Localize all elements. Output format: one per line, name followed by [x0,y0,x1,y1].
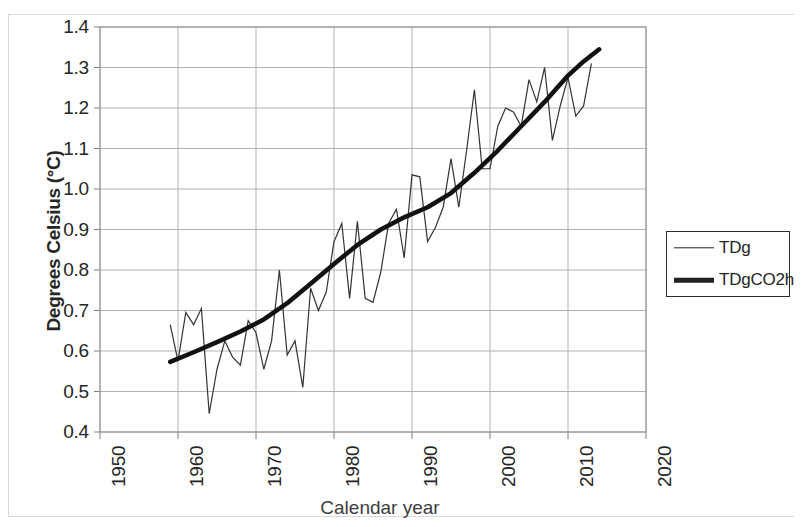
x-tick-label: 1980 [343,446,362,487]
y-tick-label: 1.3 [37,58,89,77]
x-tick-label: 1950 [109,446,128,487]
legend-item-tdg[interactable]: TDg [667,234,789,262]
y-tick-label: 0.4 [37,422,89,441]
chart-figure: 0.40.50.60.70.80.91.01.11.21.31.4 195019… [0,0,803,527]
x-tick-label: 1970 [265,446,284,487]
y-tick-label: 1.4 [37,17,89,36]
x-tick-label: 2000 [499,446,518,487]
x-tick-label: 1960 [187,446,206,487]
y-axis-title: Degrees Celsius (°C) [43,91,65,391]
axis-ticks-group [94,27,646,439]
x-tick-label: 2020 [655,446,674,487]
x-axis-title: Calendar year [280,497,480,519]
legend-item-tdgco2h[interactable]: TDgCO2h [667,266,789,294]
legend-line-swatch-thin [674,242,714,254]
legend-label-tdg: TDg [719,238,751,258]
chart-legend: TDg TDgCO2h [666,231,790,297]
legend-line-swatch-thick [674,274,714,286]
gridlines-group [100,27,646,432]
x-tick-label: 2010 [577,446,596,487]
legend-label-tdgco2h: TDgCO2h [719,270,794,290]
data-series-group [170,49,599,414]
x-tick-label: 1990 [421,446,440,487]
